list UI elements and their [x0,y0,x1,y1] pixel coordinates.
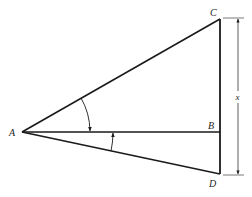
triangle-diagram: A B C D x [0,0,252,197]
segment-AD [22,132,220,174]
angle-arc-DAB [111,133,113,151]
label-dimension-x: x [235,92,240,102]
segment-AC [22,19,220,132]
label-point-C: C [210,7,217,18]
angle-arc-CAB [81,98,90,131]
label-point-B: B [208,120,214,131]
label-point-D: D [208,178,217,189]
label-point-A: A [8,127,16,138]
